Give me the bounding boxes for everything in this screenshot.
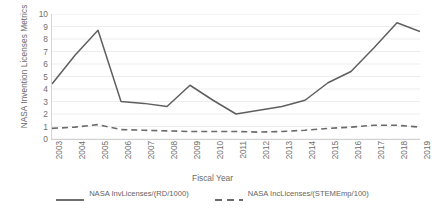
- x-tick-label: 2016: [355, 141, 363, 159]
- data-series-group: [52, 14, 420, 139]
- y-tick-label: 5: [43, 72, 48, 80]
- x-axis-line: [51, 139, 420, 140]
- y-tick-label: 0: [43, 135, 48, 143]
- x-tick-label: 2017: [378, 141, 386, 159]
- x-tick-label: 2007: [148, 141, 156, 159]
- legend-swatch-dashed: [215, 190, 243, 198]
- x-tick-label: 2008: [171, 141, 179, 159]
- chart-legend: NASA InvLicenses/(RD/1000)NASA IncLicens…: [0, 189, 425, 198]
- x-tick-label: 2010: [217, 141, 225, 159]
- x-tick-label: 2014: [309, 141, 317, 159]
- legend-item-2[interactable]: NASA IncLicenses/(STEMEmp/100): [215, 189, 369, 198]
- y-tick-label: 2: [43, 110, 48, 118]
- x-axis-title: Fiscal Year: [0, 173, 425, 183]
- y-tick-label: 8: [43, 35, 48, 43]
- y-tick-label: 7: [43, 47, 48, 55]
- x-tick-label: 2009: [194, 141, 202, 159]
- y-tick-label: 6: [43, 60, 48, 68]
- y-tick-label: 4: [43, 85, 48, 93]
- x-tick-label: 2018: [401, 141, 409, 159]
- x-tick-label: 2004: [79, 141, 87, 159]
- legend-label: NASA IncLicenses/(STEMEmp/100): [248, 189, 369, 198]
- y-tick-label: 3: [43, 97, 48, 105]
- x-tick-label: 2012: [263, 141, 271, 159]
- x-axis-tick-labels: 2003200420052006200720082009201020112012…: [52, 141, 420, 171]
- series-line-2: [52, 125, 420, 133]
- x-tick-label: 2006: [125, 141, 133, 159]
- x-tick-label: 2019: [424, 141, 432, 159]
- y-axis-tick-labels: 012345678910: [30, 14, 48, 139]
- y-axis-title: NASA Invention Licenses Metrics: [20, 0, 29, 137]
- x-tick-label: 2005: [102, 141, 110, 159]
- x-tick-label: 2011: [240, 141, 248, 159]
- y-tick-label: 10: [39, 10, 48, 18]
- legend-label: NASA InvLicenses/(RD/1000): [89, 189, 189, 198]
- x-tick-label: 2013: [286, 141, 294, 159]
- plot-area: [52, 14, 420, 139]
- x-tick-label: 2015: [332, 141, 340, 159]
- series-line-1: [52, 23, 420, 114]
- legend-item-1[interactable]: NASA InvLicenses/(RD/1000): [56, 189, 189, 198]
- legend-swatch-solid: [56, 190, 84, 198]
- x-tick-label: 2003: [56, 141, 64, 159]
- y-tick-label: 9: [43, 22, 48, 30]
- y-tick-label: 1: [43, 122, 48, 130]
